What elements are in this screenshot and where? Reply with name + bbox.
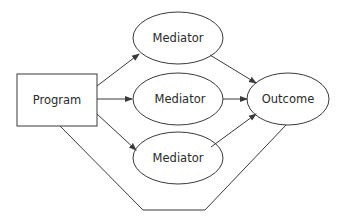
mediation-diagram: Program Mediator Mediator Mediator Outco… [0,0,345,223]
edge-program-mediator-top [97,54,139,86]
outcome-node: Outcome [247,73,329,125]
outcome-label: Outcome [262,92,315,106]
edge-mediator-bottom-outcome [211,114,256,147]
program-node: Program [17,74,97,126]
program-label: Program [33,93,82,107]
edge-program-mediator-bottom [97,114,136,150]
mediator-top-node: Mediator [133,12,223,64]
mediator-middle-node: Mediator [133,73,223,125]
mediator-top-label: Mediator [153,31,204,45]
mediator-middle-label: Mediator [155,92,206,106]
edge-mediator-top-outcome [210,55,256,83]
mediator-bottom-node: Mediator [133,132,223,184]
mediator-bottom-label: Mediator [153,151,204,165]
